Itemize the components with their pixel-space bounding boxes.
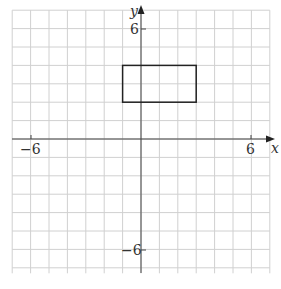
x-axis [12, 135, 275, 143]
y-tick-label-6: 6 [130, 21, 139, 37]
graph-svg: x y −6 6 6 −6 [0, 0, 281, 289]
y-tick-label-neg6: −6 [121, 242, 142, 258]
coordinate-plane: x y −6 6 6 −6 [0, 0, 281, 289]
x-tick-label-6: 6 [246, 141, 255, 157]
y-axis-arrow-icon [138, 5, 145, 14]
x-axis-label: x [271, 140, 279, 156]
x-tick-label-neg6: −6 [20, 141, 41, 157]
y-axis-label: y [129, 3, 139, 19]
